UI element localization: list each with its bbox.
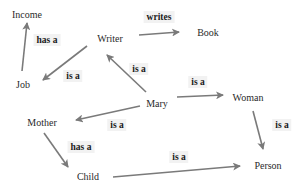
node-child: Child [77, 171, 99, 182]
edge-writer-book [139, 32, 179, 35]
edge-woman-person [253, 111, 263, 149]
edge-label-is-a-mary-woman: is a [188, 76, 207, 88]
edge-job-income [22, 23, 27, 71]
edge-label-is-a-mary-mother: is a [107, 119, 126, 131]
edge-label-is-a-writer-job: is a [63, 70, 82, 82]
node-job: Job [16, 79, 30, 90]
edge-mary-mother [76, 106, 140, 120]
node-mother: Mother [27, 117, 56, 128]
edge-label-is-a-mary-writer: is a [129, 63, 148, 75]
edge-label-has-a-mother-child: has a [68, 141, 95, 153]
edge-label-has-a-job-income: has a [34, 34, 61, 46]
edge-label-writes: writes [144, 11, 175, 23]
edge-mother-child [44, 133, 68, 167]
edge-label-is-a-child-person: is a [169, 151, 188, 163]
semantic-network-diagram: Income Writer Book Job Mary Woman Mother… [0, 0, 306, 186]
node-book: Book [197, 27, 219, 38]
edge-child-person [113, 166, 240, 177]
node-person: Person [254, 160, 281, 171]
node-income: Income [12, 9, 42, 20]
edge-mary-woman [177, 95, 223, 97]
edge-label-is-a-woman-person: is a [272, 119, 291, 131]
node-mary: Mary [146, 98, 168, 109]
node-writer: Writer [97, 33, 123, 44]
node-woman: Woman [233, 92, 264, 103]
